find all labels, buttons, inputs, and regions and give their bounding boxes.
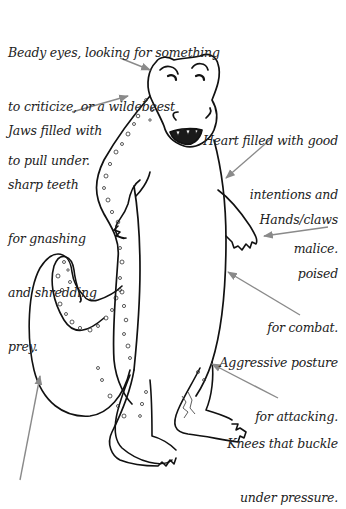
- annotation-line: Aggressive posture: [220, 354, 338, 372]
- annotation-line: Jaws filled with: [8, 122, 102, 140]
- annotation-line: and shredding: [8, 284, 102, 302]
- annotation-knees: Knees that buckle under pressure.: [227, 399, 338, 509]
- annotation-line: for gnashing: [8, 230, 102, 248]
- annotation-line: Heart filled with good: [203, 132, 338, 150]
- annotation-line: sharp teeth: [8, 176, 102, 194]
- annotation-line: poised: [260, 265, 338, 283]
- annotation-line: under pressure.: [227, 489, 338, 507]
- annotation-line: Knees that buckle: [227, 435, 338, 453]
- annotation-line: Hands/claws: [260, 211, 338, 229]
- annotation-jaws: Jaws filled with sharp teeth for gnashin…: [8, 86, 102, 392]
- annotation-line: prey.: [8, 338, 102, 356]
- annotation-line: Beady eyes, looking for something: [8, 44, 220, 62]
